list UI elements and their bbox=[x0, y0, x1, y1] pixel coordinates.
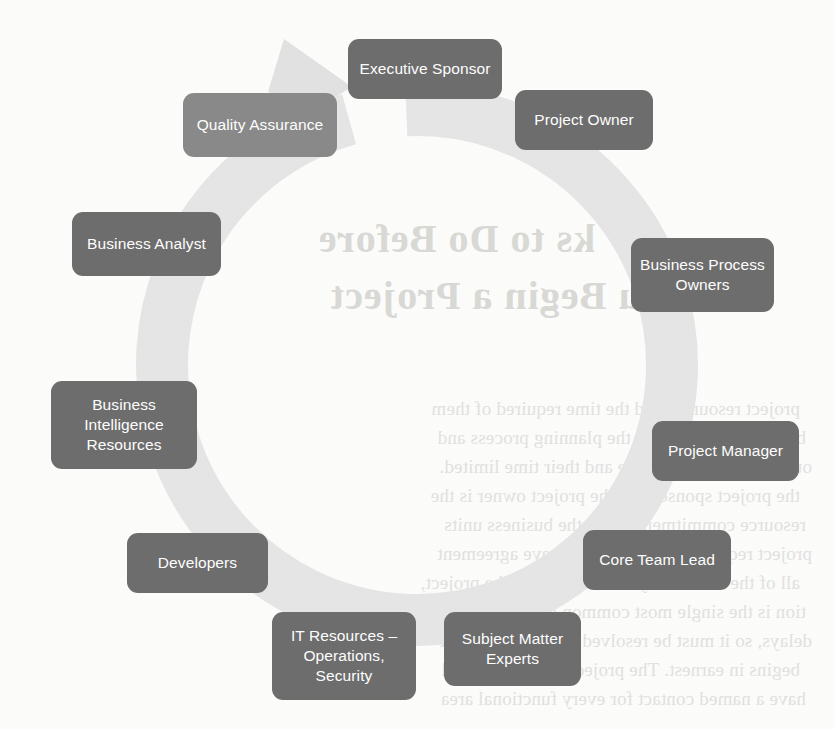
role-node-label: IT Resources –Operations,Security bbox=[291, 626, 397, 685]
role-node-label: Developers bbox=[158, 553, 237, 573]
role-node-label-line: Security bbox=[291, 666, 397, 686]
role-node-label: Executive Sponsor bbox=[360, 59, 491, 79]
role-node-label: Project Manager bbox=[668, 441, 783, 461]
role-node-label-line: Executive Sponsor bbox=[360, 59, 491, 79]
role-node-label: Business ProcessOwners bbox=[640, 255, 765, 295]
role-node-it-resources-operations-security[interactable]: IT Resources –Operations,Security bbox=[272, 612, 416, 700]
role-node-business-intelligence-resources[interactable]: BusinessIntelligenceResources bbox=[51, 381, 197, 469]
role-node-label-line: Core Team Lead bbox=[599, 550, 715, 570]
role-node-project-manager[interactable]: Project Manager bbox=[652, 421, 799, 481]
role-node-label: Core Team Lead bbox=[599, 550, 715, 570]
role-node-label-line: Quality Assurance bbox=[197, 115, 324, 135]
role-node-core-team-lead[interactable]: Core Team Lead bbox=[583, 530, 731, 590]
role-node-executive-sponsor[interactable]: Executive Sponsor bbox=[348, 39, 502, 99]
role-node-label-line: Business bbox=[84, 395, 164, 415]
role-node-label-line: Developers bbox=[158, 553, 237, 573]
role-node-label: Project Owner bbox=[534, 110, 634, 130]
role-node-label-line: IT Resources – bbox=[291, 626, 397, 646]
role-node-label: Business Analyst bbox=[87, 234, 206, 254]
role-node-business-process-owners[interactable]: Business ProcessOwners bbox=[631, 238, 774, 312]
role-node-label-line: Operations, bbox=[291, 646, 397, 666]
role-node-subject-matter-experts[interactable]: Subject MatterExperts bbox=[444, 612, 581, 686]
role-node-label-line: Intelligence bbox=[84, 415, 164, 435]
role-node-label-line: Experts bbox=[462, 649, 563, 669]
cycle-ring-arrow bbox=[0, 0, 834, 729]
role-node-quality-assurance[interactable]: Quality Assurance bbox=[183, 93, 337, 157]
role-node-project-owner[interactable]: Project Owner bbox=[515, 90, 653, 150]
role-node-developers[interactable]: Developers bbox=[127, 533, 268, 593]
role-node-label: BusinessIntelligenceResources bbox=[84, 395, 164, 454]
role-node-label-line: Project Manager bbox=[668, 441, 783, 461]
role-node-label-line: Project Owner bbox=[534, 110, 634, 130]
role-node-label: Quality Assurance bbox=[197, 115, 324, 135]
role-node-label-line: Resources bbox=[84, 435, 164, 455]
scanned-page: ks to Do Before You Begin a Project proj… bbox=[0, 0, 834, 729]
role-node-business-analyst[interactable]: Business Analyst bbox=[72, 212, 221, 276]
role-node-label-line: Business Analyst bbox=[87, 234, 206, 254]
role-node-label-line: Owners bbox=[640, 275, 765, 295]
role-node-label-line: Subject Matter bbox=[462, 629, 563, 649]
role-node-label: Subject MatterExperts bbox=[462, 629, 563, 669]
role-node-label-line: Business Process bbox=[640, 255, 765, 275]
